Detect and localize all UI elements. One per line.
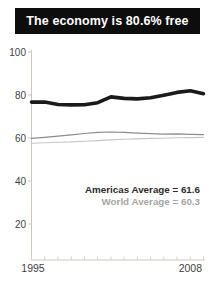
freedom-trend-line-chart: 1008060402019952008Americas Average = 61… bbox=[0, 0, 213, 293]
americas-average-label: Americas Average = 61.6 bbox=[85, 184, 201, 195]
y-tick-label: 80 bbox=[15, 90, 27, 101]
world-average-line bbox=[32, 137, 204, 143]
y-tick-label: 40 bbox=[15, 176, 27, 187]
x-tick-label-start: 1995 bbox=[21, 262, 45, 274]
y-tick-label: 60 bbox=[15, 133, 27, 144]
x-tick-label-end: 2008 bbox=[179, 262, 203, 274]
world-average-label: World Average = 60.3 bbox=[102, 196, 201, 207]
country-score-line bbox=[32, 91, 204, 105]
y-tick-label: 20 bbox=[15, 219, 27, 230]
economic-freedom-chart-widget: The economy is 80.6% free 10080604020199… bbox=[0, 0, 213, 293]
y-tick-label: 100 bbox=[9, 47, 26, 58]
